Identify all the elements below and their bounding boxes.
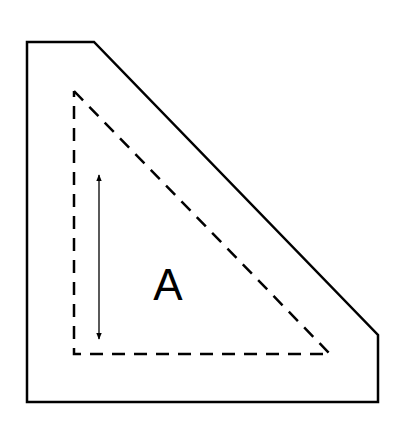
diagram-canvas: A: [0, 0, 398, 425]
region-label: A: [153, 260, 183, 309]
inner-dashed-triangle: [74, 91, 330, 354]
